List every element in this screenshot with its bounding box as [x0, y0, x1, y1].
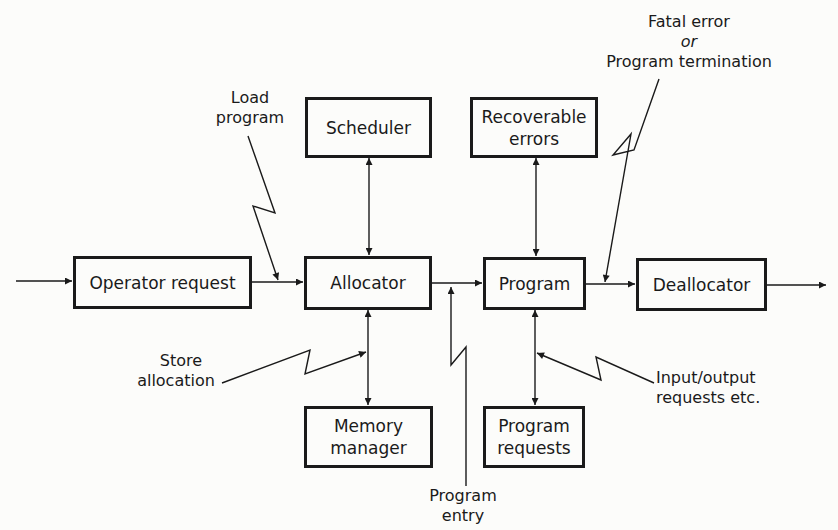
store-allocation-line2: allocation [128, 371, 224, 391]
scheduler-box: Scheduler [305, 97, 432, 158]
fatal-error-arrow [605, 79, 659, 282]
store-allocation-annotation: Store allocation [128, 351, 224, 391]
program-requests-label-line2: requests [497, 437, 570, 459]
load-program-annotation: Load program [212, 88, 288, 128]
operator-request-box: Operator request [73, 256, 252, 309]
recoverable-errors-label-line2: errors [509, 128, 559, 150]
scheduler-label: Scheduler [326, 117, 411, 139]
memory-manager-label-line1: Memory [334, 415, 403, 437]
io-requests-arrow [537, 353, 654, 383]
deallocator-label: Deallocator [653, 274, 751, 296]
program-requests-label-line1: Program [498, 415, 570, 437]
io-requests-line1: Input/output [656, 368, 786, 388]
program-entry-arrow [451, 287, 466, 486]
memory-manager-label-line2: manager [330, 437, 406, 459]
program-entry-line2: entry [418, 506, 508, 526]
program-entry-annotation: Program entry [418, 486, 508, 526]
allocator-label: Allocator [330, 272, 405, 294]
program-entry-line1: Program [418, 486, 508, 506]
io-requests-line2: requests etc. [656, 388, 786, 408]
deallocator-box: Deallocator [636, 258, 767, 311]
store-allocation-arrow [222, 350, 366, 383]
recoverable-errors-label-line1: Recoverable [481, 106, 586, 128]
io-requests-annotation: Input/output requests etc. [656, 368, 786, 408]
recoverable-errors-box: Recoverable errors [470, 97, 598, 158]
allocator-box: Allocator [304, 256, 432, 310]
store-allocation-line1: Store [128, 351, 224, 371]
fatal-error-annotation: Fatal error or Program termination [584, 12, 794, 72]
fatal-error-line2: Program termination [584, 52, 794, 72]
operator-request-label: Operator request [89, 272, 235, 294]
fatal-error-or: or [584, 32, 794, 52]
fatal-error-line1: Fatal error [584, 12, 794, 32]
program-label: Program [499, 273, 571, 295]
memory-manager-box: Memory manager [304, 406, 433, 468]
program-box: Program [483, 257, 586, 310]
program-requests-box: Program requests [483, 406, 585, 468]
load-program-line1: Load [212, 88, 288, 108]
load-program-line2: program [212, 108, 288, 128]
load-program-arrow [248, 136, 278, 280]
